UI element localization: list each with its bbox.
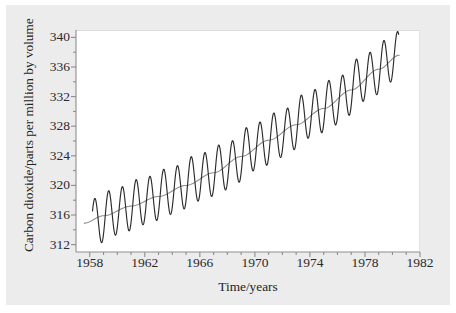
x-tick-label: 1978: [335, 256, 395, 270]
co2-oscillating-series: [93, 32, 399, 243]
plot-wrapper: 312316320324328332336340 195819621966197…: [0, 0, 456, 313]
x-tick-label: 1982: [390, 256, 450, 270]
x-tick-label: 1962: [115, 256, 175, 270]
figure-root: 312316320324328332336340 195819621966197…: [0, 0, 456, 313]
y-axis-ticks: [71, 37, 76, 244]
trend-line-series: [84, 55, 399, 223]
x-tick-label: 1966: [170, 256, 230, 270]
x-tick-label: 1970: [225, 256, 285, 270]
x-axis-title: Time/years: [76, 279, 420, 295]
y-axis-title: Carbon dioxide/parts per million by volu…: [21, 32, 37, 252]
x-tick-label: 1958: [60, 256, 120, 270]
x-tick-label: 1974: [280, 256, 340, 270]
